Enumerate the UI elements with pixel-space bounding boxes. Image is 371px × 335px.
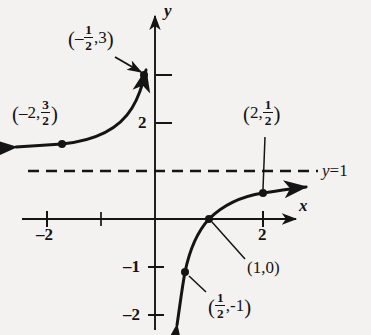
point-marker-two-half	[259, 189, 267, 197]
x-axis	[22, 211, 296, 227]
point-marker-minus-half-three	[140, 71, 148, 79]
fraction-denominator: 2	[263, 113, 273, 127]
y-tick-label-minus1: –1	[123, 258, 140, 275]
point-label-half-minus1: (12,-1)	[208, 292, 251, 322]
fraction-three-halves: 32	[41, 98, 51, 128]
fraction-numerator: 1	[263, 98, 273, 113]
point-label-two-half: (2,12)	[243, 99, 280, 129]
x-axis-label: x	[299, 197, 308, 214]
graph-canvas	[0, 0, 371, 335]
y-axis-label: y	[164, 2, 172, 19]
paren-open: (	[68, 28, 75, 50]
point-label-minus-half-three: (–12,3)	[68, 24, 114, 54]
label-x-value: 2,	[250, 103, 263, 122]
leader-line-two-half	[263, 137, 265, 189]
x-tick-label-2: 2	[258, 226, 267, 243]
point-label-one-zero: (1,0)	[247, 259, 280, 276]
paren-close: )	[244, 296, 251, 318]
asymptote-value: 1	[339, 161, 348, 180]
y-tick-label-minus2: –2	[123, 306, 140, 323]
label-x-value: –2,	[19, 103, 40, 122]
y-axis	[148, 16, 172, 330]
y-tick-label-2: 2	[138, 114, 147, 131]
point-marker-minus2-three-halves	[58, 140, 66, 148]
asymptote-variable: y	[322, 161, 330, 180]
paren-close: )	[273, 103, 280, 125]
label-y-value: ,-1	[226, 296, 244, 315]
fraction-denominator: 2	[215, 306, 225, 320]
fraction-numerator: 1	[84, 23, 94, 38]
leader-line-one-zero	[212, 222, 245, 259]
asymptote-equals: =	[330, 161, 340, 180]
x-tick-label-minus2: –2	[36, 226, 53, 243]
fraction-one-half: 12	[263, 98, 273, 128]
fraction-one-half: 12	[215, 291, 225, 321]
paren-close: )	[107, 28, 114, 50]
point-marker-half-minus1	[181, 268, 189, 276]
fraction-numerator: 3	[41, 98, 51, 113]
leader-line-minus-half-three	[115, 57, 141, 72]
figure-container: y x –2 2 2 –1 –2 (–12,3) (–2,32) (2,12) …	[0, 0, 371, 335]
paren-open: (	[243, 103, 250, 125]
paren-open: (	[208, 296, 215, 318]
fraction-denominator: 2	[41, 113, 51, 127]
fraction-one-half: 12	[84, 23, 94, 53]
point-marker-one-zero	[205, 215, 213, 223]
fraction-numerator: 1	[215, 291, 225, 306]
paren-close: )	[51, 103, 58, 125]
paren-open: (	[12, 103, 19, 125]
leader-line-half-minus1	[189, 276, 206, 292]
minus-sign: –	[75, 28, 83, 47]
point-label-minus2-three-halves: (–2,32)	[12, 99, 58, 129]
asymptote-label: y=1	[322, 162, 348, 179]
label-y-value: ,3	[94, 28, 107, 47]
fraction-denominator: 2	[84, 38, 94, 52]
